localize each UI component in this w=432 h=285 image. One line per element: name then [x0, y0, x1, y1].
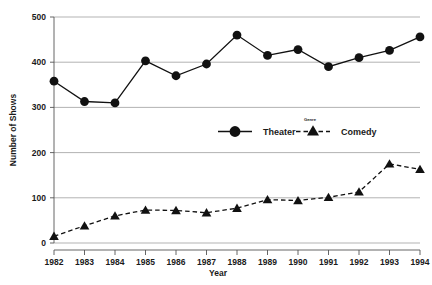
line-chart: 500 400 300 200 100 0 Number of Shows 19… — [0, 0, 432, 285]
data-point-comedy-1994[interactable] — [415, 165, 425, 173]
data-point-theater-1983[interactable] — [80, 97, 89, 106]
data-point-theater-1984[interactable] — [111, 98, 120, 107]
x-tick-label: 1984 — [106, 257, 125, 267]
x-tick-label: 1988 — [228, 257, 247, 267]
x-tick-label: 1991 — [319, 257, 338, 267]
x-tick-label: 1993 — [380, 257, 399, 267]
x-axis-title: Year — [209, 268, 228, 278]
data-point-theater-1989[interactable] — [263, 51, 272, 60]
x-tick-label: 1992 — [350, 257, 369, 267]
data-point-comedy-1989[interactable] — [263, 195, 273, 203]
legend: Genre Theater Comedy — [218, 117, 377, 137]
legend-item-comedy[interactable]: Comedy — [296, 125, 377, 137]
x-tick-label: 1990 — [289, 257, 308, 267]
series-comedy — [49, 159, 425, 240]
x-tick-label: 1989 — [258, 257, 277, 267]
legend-item-theater[interactable]: Theater — [218, 126, 296, 137]
x-tick-labels: 1982198319841985198619871988198919901991… — [45, 257, 430, 267]
chart-canvas: 500 400 300 200 100 0 Number of Shows 19… — [0, 0, 432, 285]
data-point-comedy-1991[interactable] — [324, 193, 334, 201]
y-axis-title: Number of Shows — [8, 94, 18, 167]
x-tick-label: 1982 — [45, 257, 64, 267]
y-tick-labels: 500 400 300 200 100 0 — [32, 12, 46, 248]
y-tick-label-400: 400 — [32, 57, 46, 67]
data-point-theater-1994[interactable] — [416, 32, 425, 41]
x-tick-marks — [54, 250, 420, 255]
y-tick-label-300: 300 — [32, 102, 46, 112]
y-axis — [50, 17, 54, 243]
series-line-comedy — [54, 164, 420, 236]
legend-title: Genre — [304, 117, 317, 122]
data-point-theater-1988[interactable] — [233, 31, 242, 40]
legend-theater-label: Theater — [263, 127, 296, 137]
legend-comedy-triangle-icon — [307, 125, 319, 135]
data-point-theater-1992[interactable] — [355, 53, 364, 62]
legend-comedy-label: Comedy — [341, 127, 377, 137]
x-tick-label: 1983 — [75, 257, 94, 267]
legend-theater-circle-icon — [230, 126, 241, 137]
x-tick-label: 1994 — [411, 257, 430, 267]
y-tick-label-0: 0 — [41, 238, 46, 248]
x-tick-label: 1986 — [167, 257, 186, 267]
y-tick-label-100: 100 — [32, 193, 46, 203]
data-point-theater-1985[interactable] — [141, 56, 150, 65]
data-point-theater-1993[interactable] — [385, 46, 394, 55]
data-point-comedy-1982[interactable] — [49, 232, 59, 240]
data-point-theater-1986[interactable] — [172, 71, 181, 80]
y-tick-label-500: 500 — [32, 12, 46, 22]
y-tick-label-200: 200 — [32, 148, 46, 158]
data-point-theater-1982[interactable] — [50, 77, 59, 86]
x-tick-label: 1987 — [197, 257, 216, 267]
data-point-comedy-1983[interactable] — [80, 221, 90, 229]
data-point-theater-1987[interactable] — [202, 60, 211, 69]
data-point-comedy-1990[interactable] — [293, 196, 303, 204]
series-theater — [50, 31, 425, 108]
data-point-theater-1990[interactable] — [294, 45, 303, 54]
data-point-comedy-1993[interactable] — [385, 159, 395, 167]
data-point-theater-1991[interactable] — [324, 62, 333, 71]
x-tick-label: 1985 — [136, 257, 155, 267]
series-line-theater — [54, 35, 420, 103]
